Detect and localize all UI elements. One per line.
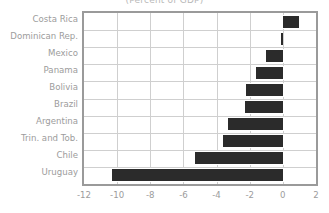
y-axis-label: Argentina xyxy=(0,116,78,127)
x-axis-tick-label: 0 xyxy=(280,190,285,200)
bar xyxy=(244,100,284,114)
y-axis-label: Brazil xyxy=(0,99,78,110)
x-axis-tick-label: 2 xyxy=(313,190,318,200)
y-axis-label: Panama xyxy=(0,65,78,76)
y-axis-category-labels: Costa RicaDominican Rep.MexicoPanamaBoli… xyxy=(0,11,78,186)
bar xyxy=(282,15,301,29)
y-axis-label: Trin. and Tob. xyxy=(0,133,78,144)
y-axis-label: Bolivia xyxy=(0,82,78,93)
bar xyxy=(194,151,284,165)
x-axis-tick-label: -8 xyxy=(146,190,155,200)
bar xyxy=(222,134,284,148)
x-axis-tick-label: -6 xyxy=(179,190,188,200)
x-axis-tick-label: -12 xyxy=(77,190,91,200)
y-axis-label: Chile xyxy=(0,150,78,161)
x-axis-tick-label: -10 xyxy=(110,190,124,200)
bar xyxy=(281,33,283,45)
plot-inner xyxy=(84,13,316,184)
y-axis-label: Uruguay xyxy=(0,167,78,178)
plot-area xyxy=(82,11,318,186)
y-axis-label: Costa Rica xyxy=(0,14,78,25)
bar xyxy=(255,66,284,80)
bar xyxy=(265,49,284,63)
x-axis-tick-labels: -12-10-8-6-4-202 xyxy=(82,190,318,206)
y-axis-label: Mexico xyxy=(0,48,78,59)
bar xyxy=(111,168,284,182)
y-axis-label: Dominican Rep. xyxy=(0,31,78,42)
bar xyxy=(227,117,284,131)
x-axis-tick-label: -4 xyxy=(212,190,221,200)
bar xyxy=(245,83,283,97)
gridline-horizontal xyxy=(84,30,316,31)
chart-title: (Percent of GDP) xyxy=(0,0,329,5)
x-axis-tick-label: -2 xyxy=(245,190,254,200)
bar-chart: (Percent of GDP) Costa RicaDominican Rep… xyxy=(0,0,329,213)
